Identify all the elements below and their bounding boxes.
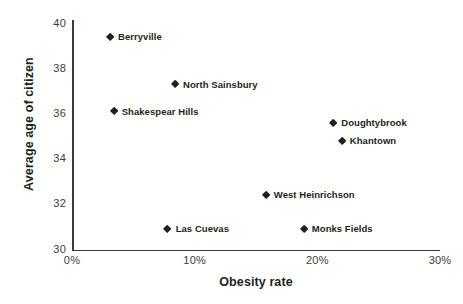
- y-axis-tick-label: 36: [40, 107, 66, 119]
- diamond-marker-icon: [261, 191, 270, 200]
- data-point-label: North Sainsbury: [183, 79, 258, 90]
- y-axis-tick-label: 30: [40, 243, 66, 255]
- data-point-label: Shakespear Hills: [122, 106, 199, 117]
- data-point-label: Khantown: [350, 135, 396, 146]
- data-point-label: West Heinrichson: [274, 189, 355, 200]
- x-axis-tick-label: 0%: [42, 254, 102, 266]
- x-axis-tick-label: 20%: [287, 254, 347, 266]
- y-axis-tick-label: 34: [40, 152, 66, 164]
- diamond-marker-icon: [329, 118, 338, 127]
- data-point-label: Las Cuevas: [176, 223, 229, 234]
- scatter-chart: 303234363840 0%10%20%30% BerryvilleNorth…: [0, 0, 463, 304]
- y-axis-title: Average age of citizen: [22, 9, 36, 239]
- data-point-label: Monks Fields: [312, 223, 373, 234]
- x-axis-line: [72, 250, 440, 252]
- x-axis-tick-label: 30%: [410, 254, 463, 266]
- diamond-marker-icon: [299, 225, 308, 234]
- y-axis-tick-label: 38: [40, 62, 66, 74]
- data-point-label: Berryville: [118, 31, 162, 42]
- diamond-marker-icon: [171, 80, 180, 89]
- y-axis-line: [72, 20, 74, 251]
- x-axis-tick-label: 10%: [165, 254, 225, 266]
- y-axis-tick-label: 40: [40, 17, 66, 29]
- x-axis-title: Obesity rate: [72, 275, 440, 289]
- diamond-marker-icon: [109, 107, 118, 116]
- data-point-label: Doughtybrook: [341, 117, 407, 128]
- diamond-marker-icon: [163, 225, 172, 234]
- diamond-marker-icon: [337, 137, 346, 146]
- diamond-marker-icon: [106, 33, 115, 42]
- y-axis-tick-label: 32: [40, 197, 66, 209]
